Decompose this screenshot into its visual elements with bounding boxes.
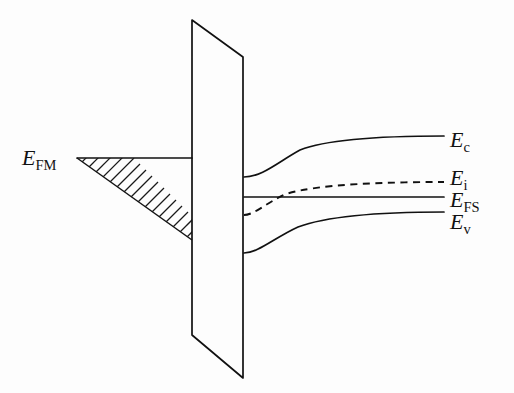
band-diagram-canvas: EFM Ec Ei EFS Ev [0,0,514,393]
label-ferromagnet-fermi-symbol: E [21,145,36,170]
label-intrinsic-level-subscript: i [463,177,467,193]
label-conduction-band-symbol: E [449,127,464,152]
label-semiconductor-fermi-subscript: FS [463,199,479,215]
label-valence-band-symbol: E [449,209,464,234]
label-ferromagnet-fermi-subscript: FM [35,157,56,173]
band-diagram-figure: EFM Ec Ei EFS Ev [0,0,514,393]
label-valence-band-subscript: v [463,221,471,237]
label-conduction-band-subscript: c [463,139,469,155]
